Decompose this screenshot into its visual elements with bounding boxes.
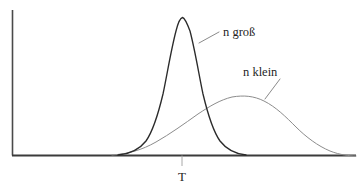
x-axis-tick-label-T: T (178, 169, 186, 184)
label-n-gross: n groß (223, 25, 255, 39)
distribution-chart: n groß n klein T (0, 0, 363, 186)
label-n-klein: n klein (243, 65, 278, 79)
figure-root: n groß n klein T (0, 0, 363, 186)
